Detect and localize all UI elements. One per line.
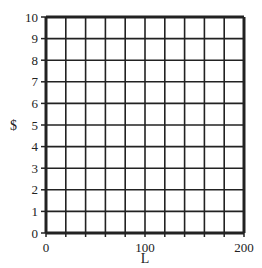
y-tick-label: 4 bbox=[32, 139, 39, 154]
y-tick-label: 10 bbox=[25, 10, 38, 25]
y-axis-ticks: 012345678910 bbox=[25, 10, 39, 241]
x-tick-label: 0 bbox=[43, 240, 50, 255]
y-tick-label: 3 bbox=[32, 161, 39, 176]
y-tick-label: 0 bbox=[32, 226, 39, 241]
y-axis-label: $ bbox=[10, 118, 17, 133]
chart-grid: 012345678910 0100200 $ L bbox=[0, 0, 262, 268]
x-tick-label: 200 bbox=[234, 240, 254, 255]
y-tick-label: 2 bbox=[32, 182, 39, 197]
x-axis-label: L bbox=[141, 251, 150, 266]
y-tick-label: 5 bbox=[32, 118, 39, 133]
y-tick-label: 7 bbox=[32, 74, 39, 89]
y-tick-label: 1 bbox=[32, 204, 39, 219]
y-tick-label: 6 bbox=[32, 96, 39, 111]
grid-lines bbox=[41, 17, 244, 237]
y-tick-label: 9 bbox=[32, 31, 39, 46]
y-tick-label: 8 bbox=[32, 53, 39, 68]
